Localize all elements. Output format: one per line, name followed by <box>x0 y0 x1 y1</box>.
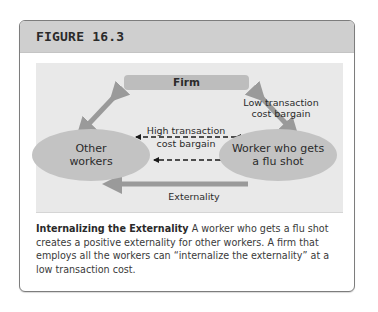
figure-caption: Internalizing the Externality A worker w… <box>36 222 342 276</box>
low-label-1: Low transaction <box>236 97 326 108</box>
firm-other-arrow <box>83 95 116 130</box>
figure-title: FIGURE 16.3 <box>36 29 124 44</box>
figure-header: FIGURE 16.3 <box>20 21 354 53</box>
figure-card: FIGURE 16.3 Firm Other <box>19 20 355 292</box>
caption-title: Internalizing the Externality <box>36 223 189 234</box>
high-label-1: High transaction <box>136 125 236 136</box>
other-workers-label-2: workers <box>69 155 112 168</box>
node-other-workers: Other workers <box>32 129 150 181</box>
worker-label-1: Worker who gets <box>232 142 324 155</box>
high-label-2: cost bargain <box>136 138 236 149</box>
high-transaction-label: High transaction cost bargain <box>136 125 236 149</box>
externality-diagram: Firm Other workers Worker who gets a flu… <box>36 63 343 213</box>
externality-label: Externality <box>164 191 224 202</box>
other-workers-label-1: Other <box>69 142 112 155</box>
node-firm: Firm <box>124 75 249 90</box>
low-label-2: cost bargain <box>236 108 326 119</box>
node-worker-flu-shot: Worker who gets a flu shot <box>219 129 337 181</box>
worker-label-2: a flu shot <box>232 155 324 168</box>
low-transaction-label: Low transaction cost bargain <box>236 97 326 119</box>
